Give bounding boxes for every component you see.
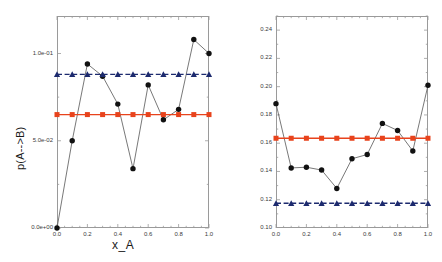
data-point-square (55, 112, 60, 117)
y-axis-label-left: p(A-->B) (14, 127, 26, 170)
data-point-circle (161, 117, 166, 122)
data-point-square (131, 112, 136, 117)
y-tick-label: 0.14 (240, 167, 272, 173)
data-point-square (100, 112, 105, 117)
data-point-circle (191, 37, 196, 42)
data-point-square (380, 136, 385, 141)
y-tick-label: 1.0e-01 (21, 50, 53, 56)
data-point-square (274, 136, 279, 141)
x-tick-label: 0.6 (141, 231, 155, 237)
data-point-circle (273, 101, 278, 106)
data-point-circle (349, 156, 354, 161)
x-tick-label: 0.2 (80, 231, 94, 237)
y-tick-label: 0.20 (240, 83, 272, 89)
data-point-triangle (206, 71, 212, 77)
x-tick-label: 1.0 (421, 231, 435, 237)
data-point-circle (85, 61, 90, 66)
y-tick-label: 5.0e-02 (21, 137, 53, 143)
x-tick-label: 0.0 (50, 231, 64, 237)
data-point-circle (334, 186, 339, 191)
data-point-circle (115, 101, 120, 106)
data-point-square (304, 136, 309, 141)
data-point-triangle (425, 200, 431, 206)
plot-canvas-left (0, 0, 221, 262)
data-point-square (350, 136, 355, 141)
y-tick-label: 0.18 (240, 111, 272, 117)
data-point-circle (380, 121, 385, 126)
series-line-measured (57, 40, 209, 228)
data-point-circle (319, 167, 324, 172)
y-tick-label: 0.22 (240, 54, 272, 60)
y-tick-label: 0.24 (240, 26, 272, 32)
data-point-circle (425, 83, 430, 88)
plot-canvas-right (221, 0, 442, 262)
data-point-circle (304, 165, 309, 170)
data-point-circle (289, 165, 294, 170)
x-tick-label: 1.0 (202, 231, 216, 237)
data-point-circle (365, 152, 370, 157)
data-point-circle (176, 107, 181, 112)
y-tick-label: 0.0e+00 (21, 224, 53, 230)
x-axis-label-left: x_A (112, 238, 134, 252)
data-point-square (319, 136, 324, 141)
data-point-square (176, 112, 181, 117)
data-point-square (115, 112, 120, 117)
y-tick-label: 0.10 (240, 224, 272, 230)
data-point-circle (395, 128, 400, 133)
data-point-circle (206, 51, 211, 56)
x-tick-label: 0.0 (269, 231, 283, 237)
data-point-circle (130, 166, 135, 171)
data-point-square (395, 136, 400, 141)
data-point-square (70, 112, 75, 117)
x-tick-label: 0.8 (172, 231, 186, 237)
data-point-circle (54, 225, 59, 230)
data-point-circle (70, 138, 75, 143)
y-tick-label: 0.16 (240, 139, 272, 145)
x-tick-label: 0.4 (111, 231, 125, 237)
data-point-square (365, 136, 370, 141)
x-tick-label: 0.2 (299, 231, 313, 237)
x-tick-label: 0.4 (330, 231, 344, 237)
data-point-square (207, 112, 212, 117)
data-point-square (410, 136, 415, 141)
data-point-square (85, 112, 90, 117)
data-point-square (161, 112, 166, 117)
x-tick-label: 0.8 (391, 231, 405, 237)
data-point-square (426, 136, 431, 141)
x-tick-label: 0.6 (360, 231, 374, 237)
data-point-square (191, 112, 196, 117)
data-point-square (146, 112, 151, 117)
data-point-square (334, 136, 339, 141)
data-point-circle (146, 82, 151, 87)
data-point-circle (410, 148, 415, 153)
chart-panel-right: p(A-->A') x_A 0.00.20.40.60.81.00.100.12… (221, 0, 442, 262)
data-point-square (289, 136, 294, 141)
chart-panel-left: p(A-->B) x_A 0.00.20.40.60.81.00.0e+005.… (0, 0, 221, 262)
y-tick-label: 0.12 (240, 196, 272, 202)
figure-container: p(A-->B) x_A 0.00.20.40.60.81.00.0e+005.… (0, 0, 442, 262)
